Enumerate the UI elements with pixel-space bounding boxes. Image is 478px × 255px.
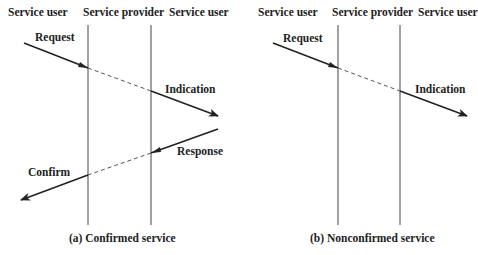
label-indication: Indication xyxy=(415,84,466,96)
column-header-service-provider: Service provider xyxy=(332,7,413,19)
request-arrowhead xyxy=(78,62,88,68)
request-dashed xyxy=(338,68,400,91)
label-request: Request xyxy=(35,32,75,44)
response-dashed xyxy=(88,153,151,175)
request-dashed xyxy=(88,68,151,91)
column-header-service-user-right: Service user xyxy=(418,7,478,19)
label-indication: Indication xyxy=(165,84,216,96)
request-arrowhead xyxy=(328,62,338,68)
column-header-service-user-left: Service user xyxy=(258,7,318,19)
nonconfirmed-service-diagram xyxy=(273,25,467,225)
label-confirm: Confirm xyxy=(28,167,70,179)
column-header-service-user-right: Service user xyxy=(169,7,229,19)
caption-nonconfirmed-service: (b) Nonconfirmed service xyxy=(310,233,435,245)
column-header-service-user-left: Service user xyxy=(8,7,68,19)
request-arrow xyxy=(24,43,88,68)
request-arrow xyxy=(273,43,338,68)
label-request: Request xyxy=(283,33,323,45)
confirm-arrow xyxy=(21,175,88,200)
confirmed-service-diagram xyxy=(21,25,218,225)
column-header-service-provider: Service provider xyxy=(83,7,164,19)
label-response: Response xyxy=(177,146,223,158)
response-arrowhead xyxy=(151,147,161,153)
caption-confirmed-service: (a) Confirmed service xyxy=(69,233,176,245)
